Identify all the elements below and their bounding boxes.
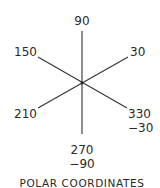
label-330: 330 <box>128 107 151 121</box>
origin-point <box>81 82 84 85</box>
label-150: 150 <box>14 45 37 59</box>
label-210: 210 <box>14 107 37 121</box>
polar-coordinates-diagram: 90 30 150 210 270 −90 330 −30 POLAR COOR… <box>0 0 160 188</box>
label-30: 30 <box>130 45 145 59</box>
label-neg-90: −90 <box>69 157 94 171</box>
diagram-caption: POLAR COORDINATES <box>20 177 145 188</box>
label-270: 270 <box>71 143 94 157</box>
label-90: 90 <box>74 14 89 28</box>
label-neg-30: −30 <box>128 121 153 135</box>
